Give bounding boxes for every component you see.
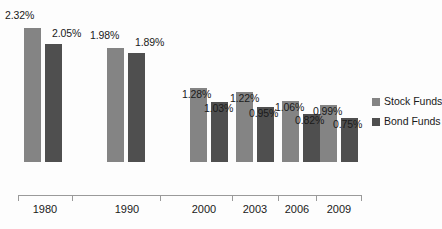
axis-tick-4 xyxy=(278,196,279,201)
axis-tick-2 xyxy=(160,196,161,201)
data-label-bond-2000: 1.03% xyxy=(204,102,233,114)
legend-label-stock: Stock Funds xyxy=(384,96,442,107)
data-label-bond-2009: 0.75% xyxy=(333,118,362,130)
axis-label-2006: 2006 xyxy=(275,203,319,215)
axis-label-2009: 2009 xyxy=(317,203,361,215)
axis-label-1980: 1980 xyxy=(18,203,72,215)
legend-swatch-icon-stock xyxy=(372,98,380,106)
axis-tick-3 xyxy=(232,196,233,201)
legend-label-bond: Bond Funds xyxy=(384,116,441,127)
data-label-stock-2003: 1.22% xyxy=(230,92,259,104)
bar-stock-1990[interactable] xyxy=(107,48,124,162)
data-label-bond-1990: 1.89% xyxy=(135,36,164,48)
axis-tick-1 xyxy=(72,196,73,201)
data-label-stock-1980: 2.32% xyxy=(5,9,34,21)
data-label-bond-2006: 0.82% xyxy=(295,114,324,126)
data-label-stock-1990: 1.98% xyxy=(90,29,119,41)
axis-label-2003: 2003 xyxy=(233,203,277,215)
data-label-stock-2000: 1.28% xyxy=(182,88,211,100)
legend-swatch-icon-bond xyxy=(372,118,380,126)
data-label-stock-2006: 1.06% xyxy=(275,101,304,113)
bar-chart: 2.32% 1.98% 1.28% 1.22% 1.06% 0.99% 2.05… xyxy=(0,0,442,229)
axis-tick-6 xyxy=(361,196,362,201)
bar-bond-1990[interactable] xyxy=(128,53,145,162)
bar-stock-1980[interactable] xyxy=(24,28,41,162)
legend-item-stock-funds[interactable]: Stock Funds xyxy=(372,95,442,108)
data-label-bond-2003: 0.95% xyxy=(249,107,278,119)
axis-tick-5 xyxy=(316,196,317,201)
plot-area: 2.32% 1.98% 1.28% 1.22% 1.06% 0.99% 2.05… xyxy=(0,0,362,196)
chart-legend: Stock Funds Bond Funds xyxy=(372,95,442,135)
axis-label-1990: 1990 xyxy=(100,203,154,215)
legend-item-bond-funds[interactable]: Bond Funds xyxy=(372,115,442,128)
data-label-bond-1980: 2.05% xyxy=(52,27,81,39)
axis-tick-0 xyxy=(18,196,19,201)
axis-label-2000: 2000 xyxy=(182,203,226,215)
x-axis-line xyxy=(18,195,362,196)
bar-bond-1980[interactable] xyxy=(45,44,62,162)
